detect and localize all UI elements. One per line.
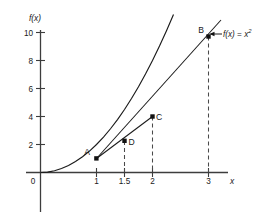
point-marker-a: [94, 156, 98, 160]
x-axis-label: x: [229, 176, 235, 186]
function-annotation-prefix: f(x): [223, 30, 235, 39]
origin-label: 0: [31, 177, 36, 186]
secant-line-ab: [97, 20, 222, 159]
function-graph-figure: 10 8 6 4 2 0 1 1.5 2 3 f(x) x A D C B: [0, 0, 263, 223]
point-label-b: B: [198, 25, 204, 35]
x-tick-label-1: 1: [94, 177, 99, 186]
arrow-left-icon: [210, 32, 223, 36]
point-marker-b: [206, 34, 210, 38]
parabola-curve: [41, 15, 174, 173]
x-tick-label-1-5: 1.5: [119, 177, 131, 186]
x-tick-label-2: 2: [150, 177, 155, 186]
y-tick-label-6: 6: [28, 85, 33, 94]
graph-canvas: 10 8 6 4 2 0 1 1.5 2 3 f(x) x A D C B: [0, 0, 263, 223]
y-axis-label: f(x): [29, 13, 41, 23]
point-marker-d: [122, 139, 126, 143]
function-annotation-exponent: 2: [247, 28, 252, 34]
point-label-a: A: [84, 147, 90, 157]
function-annotation-eq: =: [235, 30, 244, 39]
point-label-c: C: [156, 112, 162, 122]
y-tick-label-2: 2: [28, 141, 33, 150]
point-label-d: D: [129, 137, 135, 147]
y-tick-label-4: 4: [28, 113, 33, 122]
secant-line-ac: [97, 117, 153, 159]
function-annotation: f(x) = x2: [223, 28, 252, 38]
point-marker-c: [150, 114, 154, 118]
y-tick-label-10: 10: [24, 29, 34, 38]
y-tick-label-8: 8: [28, 57, 33, 66]
x-tick-label-3: 3: [206, 177, 211, 186]
